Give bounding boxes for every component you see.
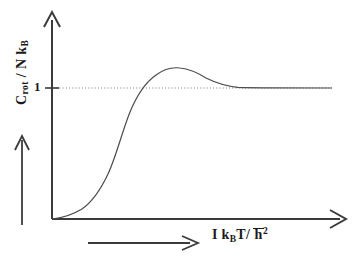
y-axis-title-divider: / N k [14,47,29,82]
hbar-glyph: h [254,227,263,243]
y-axis-title-numerator: C [14,94,29,105]
y-axis-title: Crot / N kB [14,12,31,132]
plot-canvas [0,0,356,266]
x-axis-title-prefix: I k [212,227,230,242]
heat-capacity-curve [52,68,332,219]
y-axis-title-numerator-subscript: rot [20,81,30,94]
rotational-heat-capacity-figure: 1 Crot / N kB I kBT/ h2 [0,0,356,266]
x-axis-title-mid: T/ [236,227,254,242]
x-axis-title: I kBT/ h2 [212,226,268,244]
y-axis-tick-label-1: 1 [34,80,41,93]
y-axis-title-denominator-subscript: B [20,40,30,47]
